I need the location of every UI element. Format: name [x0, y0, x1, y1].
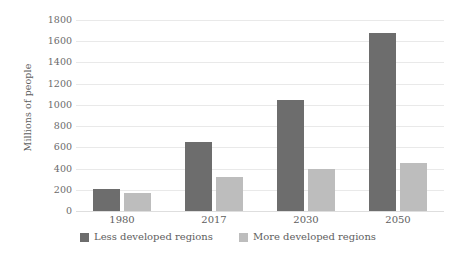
y-axis-title: Millions of people [18, 0, 38, 215]
bar [277, 100, 304, 211]
y-axis-tick-label: 600 [36, 142, 72, 152]
y-axis-tick-label: 1400 [36, 57, 72, 67]
y-axis-tick-label: 1600 [36, 36, 72, 46]
legend-item[interactable]: Less developed regions [80, 231, 213, 243]
legend-label: More developed regions [253, 231, 376, 243]
bars-layer [76, 20, 444, 211]
y-axis-tick-labels: 020040060080010001200140016001800 [36, 20, 72, 211]
x-axis-tick-label: 2017 [201, 213, 226, 227]
legend-label: Less developed regions [94, 231, 213, 243]
x-axis-tick-labels: 1980201720302050 [76, 213, 444, 229]
y-axis-title-label: Millions of people [23, 64, 34, 152]
x-axis-tick-label: 1980 [109, 213, 134, 227]
bar [369, 33, 396, 211]
bar [308, 169, 335, 211]
y-axis-tick-label: 800 [36, 121, 72, 131]
y-axis-tick-label: 400 [36, 164, 72, 174]
x-axis-tick-label: 2050 [385, 213, 410, 227]
bar [185, 142, 212, 212]
chart-legend: Less developed regionsMore developed reg… [0, 231, 456, 243]
bar [93, 189, 120, 211]
y-axis-tick-label: 1200 [36, 79, 72, 89]
axis-baseline [76, 211, 444, 212]
bar-chart: Millions of people 020040060080010001200… [0, 0, 456, 259]
bar [400, 163, 427, 211]
y-axis-tick-label: 1000 [36, 100, 72, 110]
legend-swatch-icon [80, 233, 89, 242]
y-axis-tick-label: 200 [36, 185, 72, 195]
legend-swatch-icon [239, 233, 248, 242]
y-axis-tick-label: 1800 [36, 15, 72, 25]
legend-item[interactable]: More developed regions [239, 231, 376, 243]
bar [124, 193, 151, 211]
bar [216, 177, 243, 211]
x-axis-tick-label: 2030 [293, 213, 318, 227]
y-axis-tick-label: 0 [36, 206, 72, 216]
